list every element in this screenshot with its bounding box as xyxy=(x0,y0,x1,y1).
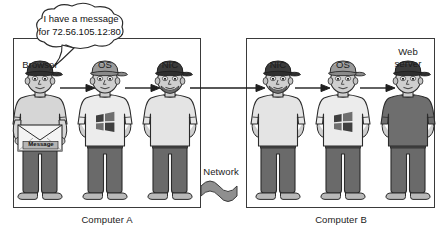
person-web-server xyxy=(381,61,435,199)
person-nic-b xyxy=(251,61,305,199)
envelope-label: Message xyxy=(25,141,57,147)
diagram-canvas: I have a message for 72.56.105.12:80. Me… xyxy=(0,0,448,236)
message-envelope-icon xyxy=(18,125,62,151)
person-os-b xyxy=(316,61,370,199)
role-label-web-server-line2: server xyxy=(386,58,430,69)
speech-bubble-line2: for 72.56.105.12:80. xyxy=(30,26,132,38)
role-label-nic-a: NIC xyxy=(152,59,188,70)
role-label-web-server-line1: Web xyxy=(386,46,430,57)
speech-bubble-line1: I have a message xyxy=(34,13,128,25)
network-label: Network xyxy=(198,166,244,177)
computer-a-caption: Computer A xyxy=(57,214,157,225)
computer-b-caption: Computer B xyxy=(291,214,391,225)
role-label-os-b: OS xyxy=(326,59,360,70)
role-label-nic-b: NIC xyxy=(260,59,296,70)
person-nic-a xyxy=(143,61,197,199)
role-label-os-a: OS xyxy=(88,59,122,70)
role-label-browser: Browser xyxy=(16,59,64,70)
person-os-a xyxy=(78,61,132,199)
network-squiggle-icon xyxy=(201,181,237,202)
